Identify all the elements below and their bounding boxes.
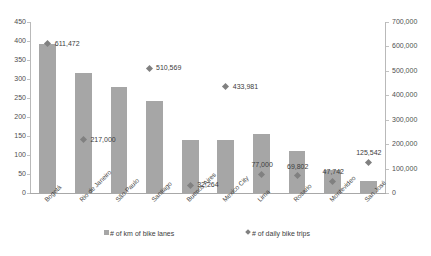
bike-lanes-chart: 050100150200250300350400450 0100,000200,… — [0, 0, 431, 256]
x-axis-label-buenos-aires: Buenos Aires — [185, 171, 218, 204]
chart-legend: # of km of bike lanes # of daily bike tr… — [0, 228, 431, 242]
legend-item-bike-lanes: # of km of bike lanes — [104, 228, 174, 238]
square-swatch-icon — [104, 230, 109, 235]
x-axis-label-montevideo: Montevideo — [328, 174, 357, 203]
x-axis-label-rosario: Rosario — [292, 182, 314, 204]
x-axis-labels: BogotáRio de JaneiroSão PauloSantiagoBue… — [0, 0, 431, 256]
x-axis-label-mexico-city: Mexico City — [221, 174, 250, 203]
legend-item-bike-lanes-label: # of km of bike lanes — [110, 230, 174, 237]
legend-item-bike-trips: # of daily bike trips — [246, 228, 310, 238]
x-axis-label-bogotá: Bogotá — [43, 183, 63, 203]
x-axis-label-lima: Lima — [256, 188, 272, 204]
x-axis-label-san-josé: San José — [363, 179, 388, 204]
legend-item-bike-trips-label: # of daily bike trips — [252, 230, 310, 237]
x-axis-label-rio-de-janeiro: Rio de Janeiro — [78, 168, 113, 203]
diamond-swatch-icon — [245, 229, 251, 235]
x-axis-label-são-paulo: São Paulo — [114, 177, 141, 204]
x-axis-label-santiago: Santiago — [150, 180, 174, 204]
